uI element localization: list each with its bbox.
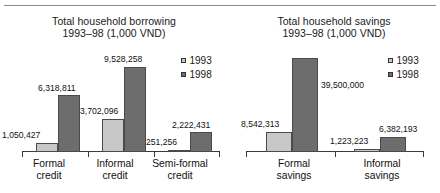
- group-label-line1: Semi-formal: [152, 158, 208, 169]
- axis-tick: [423, 152, 424, 157]
- chart-title-savings: Total household savings 1993–98 (1,000 V…: [228, 15, 440, 39]
- bar-value-1993-informal-savings: 1,223,223: [330, 137, 368, 146]
- bar-value-1993-semi-formal-credit: 251,256: [146, 138, 177, 147]
- group-label-line2: credit: [140, 170, 220, 182]
- axis-tick: [22, 152, 23, 157]
- group-label-line2: savings: [334, 170, 430, 182]
- group-label-line1: Formal: [278, 158, 310, 169]
- group-label-informal-savings: Informal savings: [334, 158, 430, 181]
- bar-value-1998-informal-credit: 9,528,258: [104, 55, 142, 64]
- bar-1993-informal-credit: [102, 119, 124, 152]
- bar-value-1993-formal-credit: 1,050,427: [2, 131, 40, 140]
- plot-area-borrowing: 1,050,427 6,318,811 3,702,096 9,528,258 …: [22, 58, 220, 152]
- bar-value-1998-informal-savings: 6,382,193: [379, 125, 417, 134]
- bar-1998-informal-credit: [124, 67, 146, 152]
- axis-tick: [246, 152, 247, 157]
- group-label-line1: Informal: [363, 158, 400, 169]
- axis-tick: [154, 152, 155, 157]
- bar-value-1993-informal-credit: 3,702,096: [80, 107, 118, 116]
- group-label-formal-savings: Formal savings: [246, 158, 342, 181]
- bar-1993-formal-savings: [266, 132, 292, 152]
- chart-title-line2: 1993–98 (1,000 VND): [0, 27, 228, 39]
- figure-bar-charts: Total household borrowing 1993–98 (1,000…: [0, 0, 440, 193]
- chart-title-line1: Total household borrowing: [52, 15, 176, 27]
- group-label-semi-formal-credit: Semi-formal credit: [140, 158, 220, 181]
- axis-tick: [88, 152, 89, 157]
- bar-1998-informal-savings: [380, 137, 406, 152]
- group-label-line1: Informal: [96, 158, 133, 169]
- bar-value-1993-formal-savings: 8,542,313: [241, 120, 279, 129]
- chart-panel-borrowing: Total household borrowing 1993–98 (1,000…: [0, 0, 228, 193]
- bar-1998-semi-formal-credit: [190, 132, 212, 152]
- group-label-line2: savings: [246, 170, 342, 182]
- chart-title-line1: Total household savings: [277, 15, 390, 27]
- bar-1993-semi-formal-credit: [168, 150, 190, 152]
- bar-value-1998-formal-credit: 6,318,811: [38, 84, 76, 93]
- axis-tick: [219, 152, 220, 157]
- plot-area-savings: 8,542,313 39,500,000 1,223,223 6,382,193: [246, 58, 424, 152]
- bar-1998-formal-savings: [292, 58, 318, 152]
- chart-panel-savings: Total household savings 1993–98 (1,000 V…: [228, 0, 440, 193]
- chart-title-borrowing: Total household borrowing 1993–98 (1,000…: [0, 15, 228, 39]
- bar-1993-informal-savings: [354, 149, 380, 152]
- chart-title-line2: 1993–98 (1,000 VND): [228, 27, 440, 39]
- bar-value-1998-semi-formal-credit: 2,222,431: [172, 121, 210, 130]
- axis-tick: [335, 152, 336, 157]
- bar-1993-formal-credit: [36, 143, 58, 152]
- bar-value-1998-formal-savings: 39,500,000: [321, 81, 364, 90]
- bar-1998-formal-credit: [58, 95, 80, 152]
- group-label-line1: Formal: [33, 158, 65, 169]
